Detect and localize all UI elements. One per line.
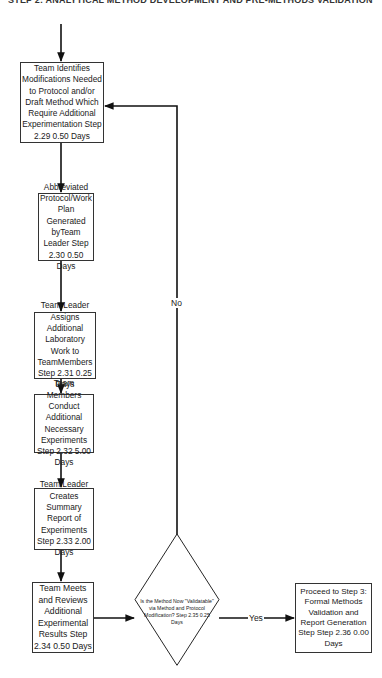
yes-label: Yes [248, 613, 264, 623]
step-2-29-box: Team Identifies Modifications Needed to … [20, 62, 104, 143]
step-2-35-text: Is the Method Now "Validatable" via Meth… [140, 598, 214, 626]
step-2-32-box: Team Members Conduct Additional Necessar… [34, 394, 94, 453]
step-2-36-text: Proceed to Step 3: Formal Methods Valida… [297, 587, 370, 649]
step-2-34-box: Team Meets and Reviews Additional Experi… [32, 582, 94, 653]
step-2-30-box: Abbreviated Protocol/Work Plan Generated… [38, 193, 94, 261]
step-2-31-box: Team Leader Assigns Additional Laborator… [34, 312, 96, 379]
step-2-30-text: Abbreviated Protocol/Work Plan Generated… [40, 182, 92, 272]
step-2-33-text: Team Leader Creates Summary Report of Ex… [36, 479, 92, 558]
step-2-34-text: Team Meets and Reviews Additional Experi… [34, 583, 92, 652]
step-2-31-text: Team Leader Assigns Additional Laborator… [36, 300, 94, 390]
no-label: No [170, 298, 183, 308]
step-2-33-box: Team Leader Creates Summary Report of Ex… [34, 488, 94, 550]
step-2-29-text: Team Identifies Modifications Needed to … [22, 63, 102, 142]
step-2-36-box: Proceed to Step 3: Formal Methods Valida… [295, 583, 372, 653]
step-2-32-text: Team Members Conduct Additional Necessar… [36, 378, 92, 468]
